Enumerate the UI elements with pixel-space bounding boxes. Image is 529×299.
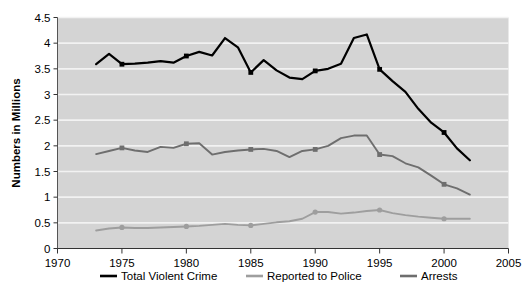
chart-container: 00.511.522.533.544.5 1970197519801985199… bbox=[0, 0, 529, 299]
series-marker bbox=[377, 207, 382, 212]
series-marker bbox=[313, 209, 318, 214]
series-marker bbox=[184, 54, 189, 59]
series-marker bbox=[248, 223, 253, 228]
y-axis-title: Numbers in Millions bbox=[10, 78, 22, 187]
x-axis-tick-label: 2005 bbox=[496, 257, 522, 269]
series-marker bbox=[441, 216, 446, 221]
plot-area-background bbox=[58, 18, 509, 249]
legend-label: Reported to Police bbox=[267, 270, 362, 282]
series-marker bbox=[377, 152, 382, 157]
x-axis-tick-label: 2000 bbox=[431, 257, 457, 269]
series-marker bbox=[248, 70, 253, 75]
plot-background-group bbox=[58, 18, 509, 249]
x-axis: 19701975198019851990199520002005 bbox=[45, 249, 522, 269]
y-axis-tick-label: 4 bbox=[44, 37, 51, 49]
y-axis-tick-label: 0.5 bbox=[35, 217, 51, 229]
x-axis-tick-label: 1995 bbox=[367, 257, 393, 269]
y-axis-tick-label: 0 bbox=[44, 243, 50, 255]
y-axis-tick-label: 4.5 bbox=[35, 12, 51, 24]
series-marker bbox=[313, 68, 318, 73]
y-axis-tick-label: 1 bbox=[44, 191, 50, 203]
series-marker bbox=[442, 182, 447, 187]
x-axis-tick-label: 1980 bbox=[174, 257, 200, 269]
x-axis-tick-label: 1970 bbox=[45, 257, 71, 269]
legend-label: Total Violent Crime bbox=[121, 270, 217, 282]
chart-legend: Total Violent CrimeReported to PoliceArr… bbox=[100, 270, 458, 282]
y-axis: 00.511.522.533.544.5 bbox=[35, 12, 58, 255]
y-axis-tick-label: 2 bbox=[44, 140, 50, 152]
x-axis-tick-label: 1985 bbox=[238, 257, 264, 269]
legend-label: Arrests bbox=[421, 270, 458, 282]
y-axis-tick-label: 1.5 bbox=[35, 166, 51, 178]
y-axis-tick-label: 2.5 bbox=[35, 114, 51, 126]
series-marker bbox=[184, 224, 189, 229]
series-marker bbox=[377, 67, 382, 72]
series-marker bbox=[119, 225, 124, 230]
series-marker bbox=[184, 141, 189, 146]
series-marker bbox=[313, 147, 318, 152]
y-axis-tick-label: 3.5 bbox=[35, 63, 51, 75]
y-axis-tick-label: 3 bbox=[44, 89, 50, 101]
series-marker bbox=[120, 145, 125, 150]
series-marker bbox=[442, 130, 447, 135]
x-axis-tick-label: 1990 bbox=[302, 257, 328, 269]
series-marker bbox=[120, 62, 125, 67]
series-marker bbox=[248, 147, 253, 152]
x-axis-tick-label: 1975 bbox=[109, 257, 135, 269]
line-chart: 00.511.522.533.544.5 1970197519801985199… bbox=[0, 0, 529, 299]
